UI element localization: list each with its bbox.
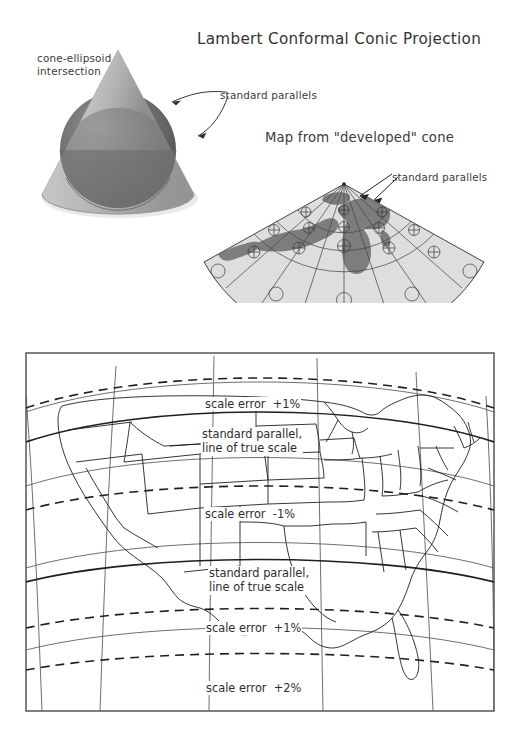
annotation-scale-error-plus2: scale error +2%	[205, 681, 302, 695]
annotation-standard-parallel-lower: standard parallel, line of true scale	[208, 566, 310, 595]
cone-ellipsoid-intersection-text: cone-ellipsoid intersection	[37, 52, 112, 77]
developed-cone-standard-parallels-label: standard parallels	[392, 172, 487, 184]
page-title: Lambert Conformal Conic Projection	[197, 30, 481, 49]
cone-standard-parallels-label: standard parallels	[220, 89, 317, 102]
annotation-standard-parallel-upper: standard parallel, line of true scale	[201, 427, 303, 456]
cone-standard-parallels-leader	[150, 80, 230, 150]
annotation-scale-error-minus1: scale error -1%	[204, 507, 296, 521]
annotation-scale-error-plus1-top: scale error +1%	[204, 397, 301, 411]
cone-ellipsoid-intersection-label: cone-ellipsoid intersection	[37, 52, 112, 77]
annotation-scale-error-plus1-bottom: scale error +1%	[205, 621, 302, 635]
developed-cone-standard-parallels-leader	[340, 170, 400, 210]
figure-page: Lambert Conformal Conic Projection	[0, 0, 521, 745]
developed-cone-caption: Map from "developed" cone	[265, 130, 454, 146]
